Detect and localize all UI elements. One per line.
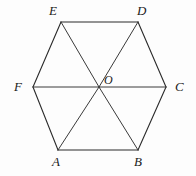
vertex-label-D: D xyxy=(137,4,146,17)
center-label-O: O xyxy=(104,74,113,86)
vertex-label-F: F xyxy=(14,80,22,93)
vertex-label-C: C xyxy=(175,80,184,93)
vertex-label-A: A xyxy=(52,155,60,168)
hexagon-diagram xyxy=(0,0,196,176)
vertex-label-E: E xyxy=(49,4,57,17)
edge-D-C xyxy=(138,22,166,87)
hexagon-figure: E D C B A F O xyxy=(0,0,196,176)
edge-F-E xyxy=(33,22,61,87)
edge-C-B xyxy=(138,87,166,150)
radius-O-E xyxy=(61,22,99,87)
vertex-label-B: B xyxy=(134,155,142,168)
radius-O-B xyxy=(99,87,138,150)
edge-A-F xyxy=(33,87,58,150)
radius-O-A xyxy=(58,87,99,150)
